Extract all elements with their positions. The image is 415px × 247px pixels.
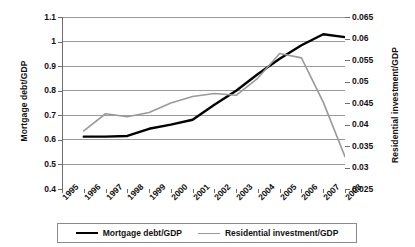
legend-label: Residential investment/GDP xyxy=(225,228,338,238)
y-axis-right-tick-label: 0.035 xyxy=(352,142,392,151)
legend-line-icon-black xyxy=(76,232,98,234)
y-axis-right-tick-mark xyxy=(345,103,350,104)
chart-container: Mortgage debt/GDP Residential investment… xyxy=(0,0,415,247)
y-axis-left-tick-label: 0.8 xyxy=(22,86,56,95)
chart-legend: Mortgage debt/GDP Residential investment… xyxy=(57,223,357,243)
y-axis-right-tick-label: 0.065 xyxy=(352,13,392,22)
y-axis-right-tick-label: 0.03 xyxy=(352,163,392,172)
legend-item-residential-investment: Residential investment/GDP xyxy=(198,228,338,238)
legend-line-icon-gray xyxy=(198,233,220,234)
y-axis-left-tick-label: 0.5 xyxy=(22,160,56,169)
legend-item-mortgage-debt: Mortgage debt/GDP xyxy=(76,228,182,238)
y-axis-right-tick-mark xyxy=(345,82,350,83)
y-axis-right-tick-mark xyxy=(345,60,350,61)
series-line-0 xyxy=(84,34,345,136)
y-axis-right-tick-label: 0.05 xyxy=(352,77,392,86)
y-axis-left-tick-label: 0.9 xyxy=(22,62,56,71)
y-axis-right-tick-mark xyxy=(345,39,350,40)
y-axis-right-tick-mark xyxy=(345,17,350,18)
y-axis-left-tick-label: 0.7 xyxy=(22,111,56,120)
y-axis-left-tick-label: 0.4 xyxy=(22,185,56,194)
y-axis-right-tick-mark xyxy=(345,125,350,126)
legend-label: Mortgage debt/GDP xyxy=(103,228,182,238)
y-axis-left-tick-label: 0.6 xyxy=(22,135,56,144)
y-axis-right-tick-label: 0.045 xyxy=(352,99,392,108)
y-axis-right-tick-label: 0.04 xyxy=(352,120,392,129)
y-axis-right-tick-label: 0.06 xyxy=(352,34,392,43)
y-axis-right-tick-label: 0.055 xyxy=(352,56,392,65)
y-axis-left-tick-label: 1 xyxy=(22,37,56,46)
plot-area xyxy=(62,17,345,189)
y-axis-right-tick-mark xyxy=(345,168,350,169)
y-axis-right-tick-mark xyxy=(345,146,350,147)
y-axis-left-tick-label: 1.1 xyxy=(22,13,56,22)
